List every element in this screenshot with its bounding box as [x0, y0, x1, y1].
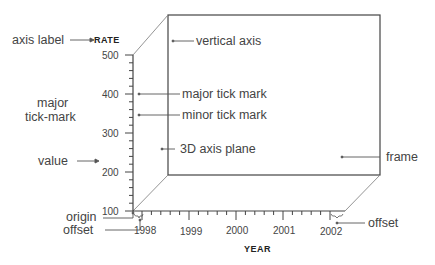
depth-line-origin — [133, 175, 168, 211]
axis-plane-annotation: 3D axis plane — [180, 142, 256, 156]
x-axis-title: YEAR — [244, 244, 271, 254]
y-tick-200: 200 — [102, 167, 119, 178]
y-tick-300: 300 — [102, 128, 119, 139]
major-tick-mark-annotation: major tick mark — [182, 87, 267, 101]
depth-line-top — [133, 15, 168, 55]
y-tick-100: 100 — [102, 206, 119, 217]
offset-right-annotation: offset — [368, 216, 398, 230]
frame-annotation: frame — [386, 150, 418, 164]
x-tick-2002: 2002 — [320, 226, 342, 237]
major-value-annotation-line3: value — [38, 154, 68, 168]
offset-brace-right — [331, 214, 343, 218]
x-tick-2001: 2001 — [273, 225, 295, 236]
major-value-annotation-line1: major — [37, 96, 68, 110]
axis-label-annotation: axis label — [12, 33, 64, 47]
minor-tick-mark-annotation: minor tick mark — [182, 108, 267, 122]
y-tick-500: 500 — [102, 50, 119, 61]
vertical-axis-annotation: vertical axis — [196, 34, 261, 48]
x-tick-2000: 2000 — [226, 225, 248, 236]
depth-line-right — [345, 175, 380, 211]
y-tick-400: 400 — [102, 89, 119, 100]
offset-left-annotation: offset — [63, 223, 93, 237]
origin-annotation: origin — [66, 210, 97, 224]
x-tick-1999: 1999 — [180, 226, 202, 237]
major-value-annotation-line2: tick-mark — [25, 110, 76, 124]
x-tick-1998: 1998 — [134, 225, 156, 236]
y-axis-title: RATE — [94, 35, 120, 45]
